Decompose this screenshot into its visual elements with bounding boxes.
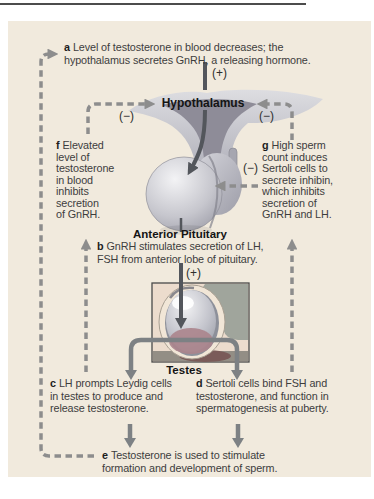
testes-label: Testes	[166, 364, 202, 376]
note-b: bGnRH stimulates secretion of LH, FSH fr…	[97, 240, 264, 265]
note-a: aLevel of testosterone in blood decrease…	[64, 41, 311, 66]
minus-sign-left: (−)	[119, 109, 134, 123]
plus-sign-gnrh: (+)	[212, 66, 227, 80]
testosterone-to-e-arrow	[124, 424, 136, 448]
note-f: fElevated level of testosterone in blood…	[56, 140, 114, 221]
sertoli-to-e-arrow	[232, 424, 244, 448]
note-e: eTestosterone is used to stimulate forma…	[102, 449, 277, 474]
anterior-pituitary-label: Anterior Pituitary	[133, 228, 227, 240]
note-g: gHigh sperm count induces Sertoli cells …	[262, 140, 333, 221]
note-d: dSertoli cells bind FSH and testosterone…	[196, 377, 329, 415]
plus-sign-lh-fsh: (+)	[186, 266, 201, 280]
testes-illustration	[152, 283, 249, 362]
note-c: cLH prompts Leydig cells in testes to pr…	[50, 377, 172, 415]
figure-canvas: aLevel of testosterone in blood decrease…	[0, 0, 374, 499]
minus-sign-inhibin: (−)	[243, 161, 258, 175]
minus-sign-right: (−)	[259, 109, 274, 123]
hypothalamus-label: Hypothalamus	[162, 96, 245, 110]
